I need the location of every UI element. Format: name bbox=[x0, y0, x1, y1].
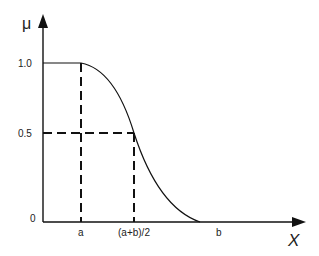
x-tick-a: a bbox=[78, 227, 84, 238]
x-axis-title: X bbox=[287, 231, 300, 250]
membership-function-chart: μ X 1.0 0.5 0 a (a+b)/2 b bbox=[0, 0, 319, 256]
x-axis-arrow-icon bbox=[292, 217, 306, 227]
membership-curve bbox=[43, 63, 200, 222]
chart-canvas: μ X 1.0 0.5 0 a (a+b)/2 b bbox=[0, 0, 319, 256]
y-tick-05: 0.5 bbox=[18, 128, 32, 139]
x-tick-b: b bbox=[216, 227, 222, 238]
y-tick-1: 1.0 bbox=[18, 58, 32, 69]
x-tick-mid: (a+b)/2 bbox=[118, 227, 150, 238]
y-tick-0: 0 bbox=[30, 213, 36, 224]
y-axis-title: μ bbox=[22, 15, 31, 32]
y-axis-arrow-icon bbox=[38, 14, 48, 28]
